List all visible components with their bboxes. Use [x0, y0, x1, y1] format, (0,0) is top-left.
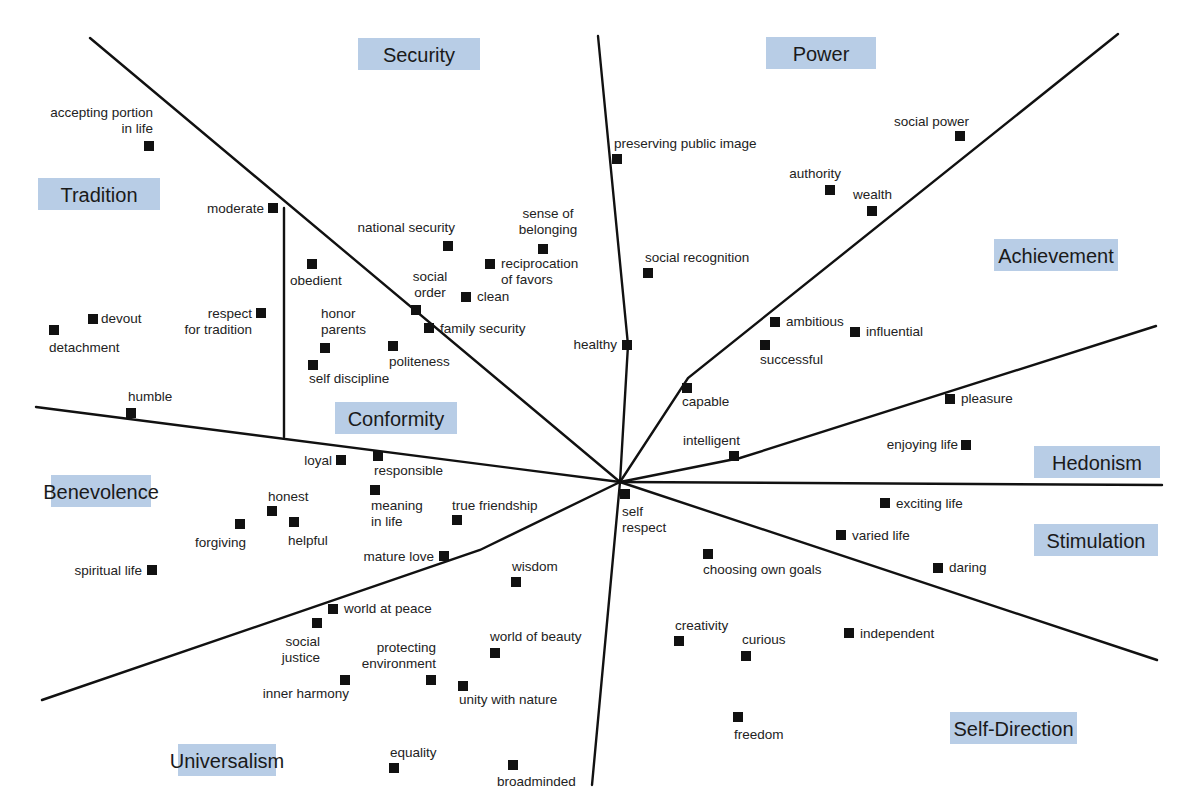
item-label: socialjustice [281, 634, 320, 665]
value-item-independent: independent [844, 626, 935, 641]
item-label: spiritual life [74, 563, 142, 578]
value-item-exciting-life: exciting life [880, 496, 963, 511]
square-marker-icon [411, 305, 421, 315]
value-item-helpful: helpful [288, 517, 328, 548]
value-region-labels: SecurityPowerTraditionAchievementConform… [38, 37, 1160, 776]
square-marker-icon [426, 675, 436, 685]
region-label: Hedonism [1052, 452, 1142, 474]
region-conformity: Conformity [335, 402, 457, 434]
value-item-daring: daring [933, 560, 987, 575]
square-marker-icon [850, 327, 860, 337]
square-marker-icon [289, 517, 299, 527]
item-label: pleasure [961, 391, 1013, 406]
square-marker-icon [770, 317, 780, 327]
value-item-mature-love: mature love [363, 549, 449, 564]
item-label: selfrespect [622, 504, 667, 535]
region-label: Security [383, 44, 455, 66]
region-power: Power [766, 37, 876, 69]
item-label: healthy [573, 337, 617, 352]
square-marker-icon [490, 648, 500, 658]
region-self-direction: Self-Direction [950, 712, 1077, 744]
item-label: sense ofbelonging [519, 206, 578, 237]
square-marker-icon [620, 489, 630, 499]
region-label: Benevolence [43, 481, 159, 503]
item-label: inner harmony [263, 686, 350, 701]
square-marker-icon [612, 154, 622, 164]
square-marker-icon [458, 681, 468, 691]
divider-lines [36, 34, 1162, 785]
square-marker-icon [961, 440, 971, 450]
square-marker-icon [312, 618, 322, 628]
value-item-detachment: detachment [49, 325, 120, 355]
value-item-equality: equality [389, 745, 437, 773]
value-item-enjoying-life: enjoying life [887, 437, 971, 452]
value-item-meaning-in-life: meaningin life [370, 485, 423, 529]
item-label: clean [477, 289, 509, 304]
value-item-wisdom: wisdom [511, 559, 558, 587]
item-label: choosing own goals [703, 562, 822, 577]
value-item-intelligent: intelligent [683, 433, 740, 461]
value-item-family-security: family security [424, 321, 526, 336]
value-item-sense-of-belonging: sense ofbelonging [519, 206, 578, 254]
value-item-healthy: healthy [573, 337, 632, 352]
value-item-protecting-environment: protectingenvironment [362, 640, 437, 685]
square-marker-icon [844, 628, 854, 638]
item-label: respectfor tradition [184, 306, 252, 337]
square-marker-icon [880, 498, 890, 508]
region-label: Power [793, 43, 850, 65]
value-structure-diagram: SecurityPowerTraditionAchievementConform… [0, 0, 1184, 812]
divider-line [592, 482, 620, 785]
item-label: world of beauty [489, 629, 582, 644]
value-item-respect-for-tradition: respectfor tradition [184, 306, 266, 337]
value-items: accepting portionin lifemoderateobedient… [49, 105, 1013, 789]
value-item-freedom: freedom [733, 712, 784, 742]
item-label: varied life [852, 528, 910, 543]
value-item-curious: curious [741, 632, 786, 661]
item-label: world at peace [343, 601, 432, 616]
value-item-inner-harmony: inner harmony [263, 675, 350, 701]
item-label: politeness [389, 354, 450, 369]
square-marker-icon [741, 651, 751, 661]
region-label: Universalism [170, 750, 284, 772]
region-tradition: Tradition [38, 178, 160, 210]
item-label: true friendship [452, 498, 538, 513]
square-marker-icon [340, 675, 350, 685]
item-label: unity with nature [459, 692, 557, 707]
square-marker-icon [955, 131, 965, 141]
item-label: honorparents [321, 306, 366, 337]
item-label: enjoying life [887, 437, 958, 452]
value-item-ambitious: ambitious [770, 314, 844, 329]
item-label: protectingenvironment [362, 640, 437, 671]
square-marker-icon [508, 760, 518, 770]
value-item-moderate: moderate [207, 201, 278, 216]
value-item-authority: authority [789, 166, 841, 195]
region-label: Tradition [60, 184, 137, 206]
item-label: detachment [49, 340, 120, 355]
item-label: ambitious [786, 314, 844, 329]
square-marker-icon [126, 408, 136, 418]
item-label: exciting life [896, 496, 963, 511]
square-marker-icon [622, 340, 632, 350]
square-marker-icon [88, 314, 98, 324]
item-label: responsible [374, 463, 443, 478]
value-item-loyal: loyal [304, 453, 346, 468]
value-item-social-order: socialorder [411, 269, 447, 315]
value-item-world-at-peace: world at peace [328, 601, 432, 616]
item-label: independent [860, 626, 935, 641]
square-marker-icon [49, 325, 59, 335]
item-label: loyal [304, 453, 332, 468]
square-marker-icon [836, 530, 846, 540]
value-item-clean: clean [461, 289, 509, 304]
square-marker-icon [336, 455, 346, 465]
value-item-creativity: creativity [674, 618, 729, 646]
divider-line [620, 482, 1162, 485]
value-item-national-security: national security [357, 220, 455, 251]
square-marker-icon [703, 549, 713, 559]
square-marker-icon [308, 360, 318, 370]
square-marker-icon [733, 712, 743, 722]
divider-line [36, 407, 620, 482]
region-security: Security [358, 38, 480, 70]
item-label: social power [894, 114, 970, 129]
item-label: forgiving [195, 535, 246, 550]
region-label: Self-Direction [953, 718, 1073, 740]
